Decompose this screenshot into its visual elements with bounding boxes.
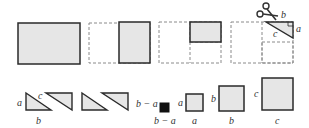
triangle-label-b: b — [36, 115, 41, 126]
square-c-bottom-label: c — [275, 115, 280, 126]
square-b-bottom-label: b — [229, 115, 234, 126]
label-c: c — [273, 28, 278, 39]
triangles-group: a b c — [17, 90, 128, 126]
square-b-group: b b — [211, 86, 244, 126]
label-b: b — [281, 9, 286, 20]
triangle-4 — [102, 93, 128, 110]
square-a — [186, 94, 203, 111]
square-a-side-label: a — [178, 97, 183, 108]
square-c — [262, 78, 293, 110]
panel-1-full-rectangle — [18, 23, 80, 64]
label-a: a — [296, 23, 301, 34]
triangle-label-a: a — [17, 97, 22, 108]
triangle-3 — [82, 93, 107, 110]
pythagorean-paper-diagram: b c a a b c b − a b − a a a b b c c — [0, 0, 309, 128]
square-b — [219, 86, 244, 111]
small-square-bottom-label: b − a — [154, 115, 176, 126]
full-rectangle — [18, 23, 80, 64]
panel-3-folded-again — [159, 22, 221, 63]
square-b-side-label: b — [211, 93, 216, 104]
panel-4-cut-triangle: b c a — [231, 3, 301, 63]
folded-strip — [119, 22, 150, 63]
square-c-group: c c — [254, 78, 293, 126]
scissors-icon — [257, 3, 278, 20]
square-c-side-label: c — [254, 88, 259, 99]
square-a-group: a a — [178, 94, 203, 126]
cut-triangle — [266, 22, 293, 38]
triangle-label-c: c — [38, 90, 43, 101]
folded-piece — [190, 22, 221, 42]
gap-label: b − a — [136, 98, 158, 109]
panel-2-folded — [89, 22, 150, 63]
triangle-2 — [46, 93, 72, 110]
square-a-bottom-label: a — [192, 115, 197, 126]
small-black-square — [160, 103, 169, 112]
lower-square-dashed — [262, 42, 293, 63]
small-square-group: b − a b − a — [136, 98, 176, 126]
